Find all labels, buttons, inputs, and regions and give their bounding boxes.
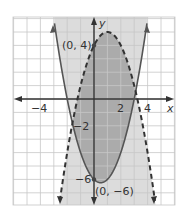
point-0-4 — [92, 43, 96, 47]
y-tick-neg6: −6 — [75, 173, 91, 186]
graph: y x −4 2 4 −2 −6 (0, 4) (0, −6) — [0, 0, 181, 223]
point-label-bottom: (0, −6) — [95, 185, 134, 198]
x-tick-4: 4 — [144, 102, 151, 115]
x-tick-neg4: −4 — [31, 102, 47, 115]
x-axis-label: x — [166, 102, 174, 115]
point-label-top: (0, 4) — [62, 39, 92, 52]
x-tick-2: 2 — [117, 102, 124, 115]
y-axis-label: y — [98, 17, 106, 30]
point-0-neg6 — [92, 177, 96, 181]
x-axis-left-arrow-icon — [14, 96, 22, 102]
y-tick-neg2: −2 — [73, 120, 89, 133]
